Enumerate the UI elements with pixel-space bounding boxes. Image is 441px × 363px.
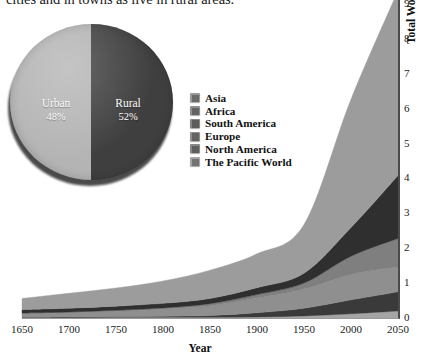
x-axis-tick-label: 1950 (284, 323, 324, 335)
x-axis-tick-label: 1850 (190, 323, 230, 335)
x-axis-tick-label: 2000 (331, 323, 371, 335)
y-axis-tick-label: 0 (404, 311, 418, 323)
y-axis-tick-label: 4 (404, 171, 418, 183)
x-axis-tick-label: 1650 (2, 323, 42, 335)
page-root: cities and in towns as live in rural are… (0, 0, 441, 363)
x-axis-tick-label: 2050 (378, 323, 418, 335)
y-axis-tick-label: 5 (404, 137, 418, 149)
x-axis-title: Year (0, 342, 400, 354)
y-axis-title: Total World Population (in billions) (405, 0, 417, 44)
area-chart-svg (0, 0, 441, 333)
y-axis-tick-label: 6 (404, 102, 418, 114)
world-population-area-chart (0, 0, 441, 333)
y-axis-line (398, 0, 400, 319)
y-axis-tick-label: 2 (404, 241, 418, 253)
x-axis-tick-label: 1750 (96, 323, 136, 335)
y-axis-tick-label: 1 (404, 276, 418, 288)
x-axis-line (22, 318, 399, 319)
x-axis-tick-label: 1700 (49, 323, 89, 335)
y-axis-tick-label: 3 (404, 206, 418, 218)
y-axis-tick-label: 7 (404, 67, 418, 79)
y-axis-title-main: Total World Population (405, 0, 417, 44)
x-axis-tick-label: 1800 (143, 323, 183, 335)
x-axis-tick-label: 1900 (237, 323, 277, 335)
